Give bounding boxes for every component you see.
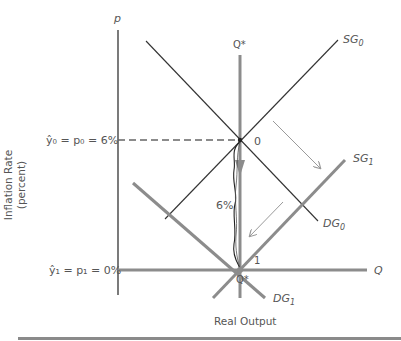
qstar-down-arrowhead <box>235 160 245 176</box>
sg0-label: SG0 <box>343 34 364 48</box>
sg0-sub: 0 <box>359 39 364 48</box>
point-0 <box>238 138 242 142</box>
bottom-divider <box>18 337 401 340</box>
dg0-curve <box>146 41 318 221</box>
dg0-sub: 0 <box>340 223 345 232</box>
x-axis-label: Q <box>374 265 383 276</box>
sg1-text: SG <box>353 152 369 165</box>
point-1-label: 1 <box>254 256 260 266</box>
qstar-top-label: Q* <box>233 40 246 50</box>
sg0-curve <box>165 40 338 219</box>
y-axis-title-line2: (percent) <box>15 105 28 265</box>
dg0-label: DG0 <box>323 218 345 232</box>
y-axis-title-line1: Inflation Rate <box>2 105 15 265</box>
x-axis-title: Real Output <box>214 316 276 327</box>
dg1-text: DG <box>273 292 290 305</box>
diagram-canvas <box>0 0 401 341</box>
dg1-sub: 1 <box>290 298 295 307</box>
lower-tick-label: ŷ₁ = p₁ = 0% <box>49 265 121 276</box>
sg1-label: SG1 <box>353 153 374 167</box>
y-axis-title: Inflation Rate (percent) <box>2 105 42 265</box>
upper-tick-label: ŷ₀ = p₀ = 6% <box>46 135 118 146</box>
point-0-label: 0 <box>254 136 261 147</box>
figure: p Q* SG0 SG1 DG0 DG1 0 1 Q* Q 6% ŷ₀ = p₀… <box>0 0 401 341</box>
point-1 <box>237 267 243 273</box>
sg1-sub: 1 <box>369 158 374 167</box>
dg1-label: DG1 <box>273 293 295 307</box>
y-axis-label: p <box>114 13 121 24</box>
qstar-bottom-label: Q* <box>236 275 249 285</box>
sg0-text: SG <box>343 33 359 46</box>
shift-arrow-down-right <box>273 121 320 168</box>
brace-6-percent-label: 6% <box>216 200 233 211</box>
dg0-text: DG <box>323 217 340 230</box>
